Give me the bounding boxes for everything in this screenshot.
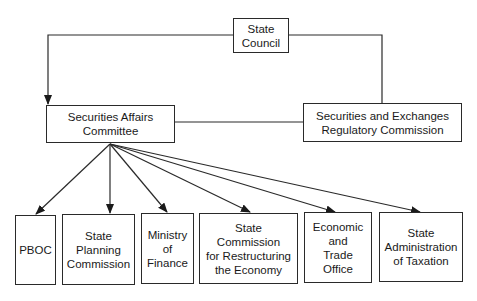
ministry-of-finance-box: Ministry of Finance bbox=[141, 213, 194, 284]
securities-affairs-committee-box: Securities Affairs Committee bbox=[46, 105, 175, 143]
state-council-box: State Council bbox=[233, 18, 289, 53]
edge-sac-to-economic bbox=[110, 144, 335, 212]
edge-sac-to-pboc bbox=[36, 144, 110, 214]
serc-box: Securities and Exchanges Regulatory Comm… bbox=[303, 103, 462, 142]
edge-sac-to-restructuring bbox=[110, 144, 250, 212]
edge-council-to-sac bbox=[48, 35, 233, 104]
edge-sac-to-taxation bbox=[110, 144, 420, 212]
pboc-box: PBOC bbox=[15, 215, 56, 285]
state-commission-restructuring-box: State Commission for Restructuring the E… bbox=[199, 213, 298, 284]
economic-trade-office-box: Economic and Trade Office bbox=[304, 212, 372, 283]
state-planning-commission-box: State Planning Commission bbox=[62, 214, 135, 285]
state-admin-taxation-box: State Administration of Taxation bbox=[379, 212, 463, 282]
edge-council-to-serc bbox=[289, 35, 382, 103]
